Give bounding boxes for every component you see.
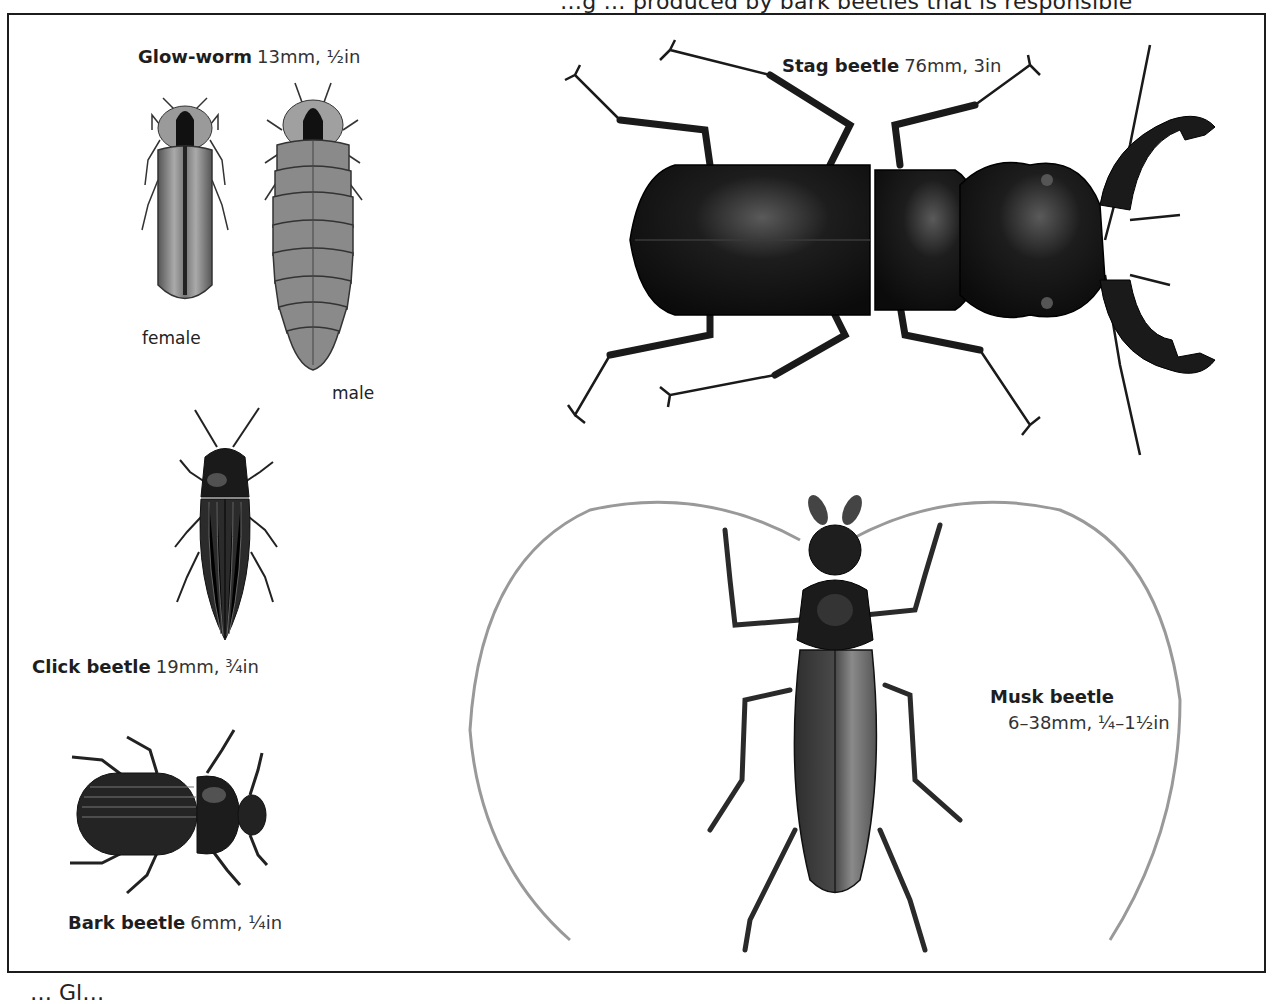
clipped-body-text-bottom: … Gl…: [30, 980, 104, 1004]
click-beetle-caption: Click beetle19mm, ¾in: [32, 658, 259, 676]
bark-beetle-caption: Bark beetle6mm, ¼in: [68, 914, 282, 932]
musk-beetle-illustration: [460, 480, 1260, 955]
click-beetle-illustration: [165, 402, 285, 647]
glow-worm-male-illustration: [255, 75, 370, 375]
species-size: 13mm, ½in: [257, 46, 360, 67]
clipped-body-text-top: …g … produced by bark beetles that is re…: [560, 0, 1133, 14]
species-size: 19mm, ¾in: [156, 656, 259, 677]
species-size: 6mm, ¼in: [190, 912, 282, 933]
species-name: Click beetle: [32, 656, 151, 677]
female-label: female: [142, 328, 201, 348]
stag-beetle-illustration: [560, 35, 1240, 455]
male-label: male: [332, 383, 374, 403]
species-name: Bark beetle: [68, 912, 185, 933]
bark-beetle-illustration: [62, 725, 277, 900]
glow-worm-caption: Glow-worm13mm, ½in: [138, 48, 360, 66]
glow-worm-female-illustration: [130, 80, 240, 320]
species-name: Glow-worm: [138, 46, 252, 67]
